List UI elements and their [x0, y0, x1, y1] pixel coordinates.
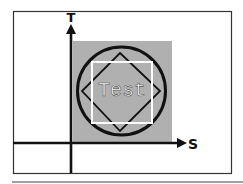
diagram-canvas: Test S T [0, 0, 243, 184]
center-label: Test [98, 79, 146, 102]
t-axis-label: T [67, 10, 76, 25]
s-axis-label: S [188, 136, 198, 152]
